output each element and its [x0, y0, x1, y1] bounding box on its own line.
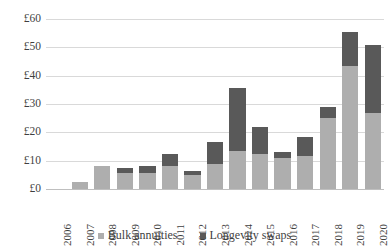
bar-segment-bulk-annuities	[320, 118, 336, 189]
y-axis-tick-label: £60	[1, 13, 41, 25]
bar-segment-bulk-annuities	[94, 166, 110, 189]
bar-column	[297, 137, 313, 189]
x-axis: 2006200720082009201020112012201320142015…	[46, 190, 384, 226]
bar-segment-bulk-annuities	[342, 66, 358, 189]
bar-column	[184, 171, 200, 189]
bar-segment-bulk-annuities	[297, 156, 313, 189]
bar-column	[94, 166, 110, 189]
bar-segment-longevity-swaps	[297, 137, 313, 157]
bar-segment-bulk-annuities	[365, 113, 381, 190]
bar-segment-longevity-swaps	[342, 32, 358, 66]
plot-area: £0£10£20£30£40£50£60	[46, 19, 384, 189]
y-axis-tick-label: £30	[1, 98, 41, 110]
bar-segment-bulk-annuities	[184, 175, 200, 189]
bar-column	[252, 127, 268, 189]
bar-segment-longevity-swaps	[229, 88, 245, 150]
legend-swatch-icon	[200, 233, 206, 239]
bar-column	[162, 154, 178, 189]
bar-segment-longevity-swaps	[139, 166, 155, 173]
legend-item[interactable]: Bulk annuities	[98, 228, 178, 243]
bar-column	[320, 107, 336, 189]
y-axis-tick-label: £0	[1, 183, 41, 195]
bar-column	[72, 182, 88, 189]
y-axis-tick-label: £40	[1, 70, 41, 82]
legend-label: Longevity swaps	[210, 228, 292, 243]
bar-segment-bulk-annuities	[274, 158, 290, 189]
bar-segment-bulk-annuities	[207, 164, 223, 190]
bar-segment-longevity-swaps	[162, 154, 178, 167]
legend-swatch-icon	[98, 233, 104, 239]
bar-segment-bulk-annuities	[162, 166, 178, 189]
gridline	[46, 47, 384, 48]
bar-column	[274, 152, 290, 189]
y-axis-tick-label: £50	[1, 42, 41, 54]
gridline	[46, 104, 384, 105]
gridline	[46, 19, 384, 20]
chart-legend: Bulk annuitiesLongevity swaps	[0, 228, 389, 243]
gridline	[46, 76, 384, 77]
bar-column	[207, 142, 223, 189]
bar-segment-bulk-annuities	[72, 182, 88, 189]
bar-segment-bulk-annuities	[252, 154, 268, 189]
bar-segment-longevity-swaps	[207, 142, 223, 163]
bar-column	[139, 166, 155, 189]
bar-segment-bulk-annuities	[229, 151, 245, 189]
bar-column	[117, 168, 133, 189]
legend-item[interactable]: Longevity swaps	[200, 228, 292, 243]
chart-container: £0£10£20£30£40£50£60 2006200720082009201…	[0, 0, 389, 248]
bar-column	[365, 45, 381, 190]
bar-column	[229, 88, 245, 189]
bar-segment-bulk-annuities	[117, 173, 133, 189]
bar-column	[342, 32, 358, 189]
bar-segment-longevity-swaps	[320, 107, 336, 118]
y-axis-tick-label: £20	[1, 127, 41, 139]
bar-segment-longevity-swaps	[365, 45, 381, 113]
bar-segment-longevity-swaps	[252, 127, 268, 154]
bar-segment-bulk-annuities	[139, 173, 155, 189]
legend-label: Bulk annuities	[108, 228, 178, 243]
y-axis-tick-label: £10	[1, 155, 41, 167]
